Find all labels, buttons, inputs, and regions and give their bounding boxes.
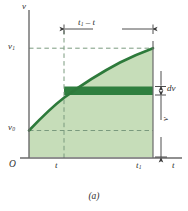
tick-label-v0: v0 — [8, 123, 15, 133]
span-annotation-label: t1 – t — [78, 18, 95, 28]
tick-label-t1: t1 — [136, 161, 142, 171]
tick-label-v1: v1 — [8, 42, 15, 52]
dv-dimension — [155, 71, 166, 110]
dv-annotation-label: dv — [167, 84, 176, 93]
velocity-time-figure: v t v1 v0 O t t1 t1 – t dv v (a) — [0, 0, 188, 211]
tick-label-t: t — [55, 161, 58, 170]
figure-caption: (a) — [0, 191, 188, 201]
y-axis-label: v — [22, 2, 26, 11]
figure-canvas — [0, 0, 188, 211]
v-height-annotation-label: v — [161, 117, 170, 121]
span-annotation-tail: – t — [84, 17, 96, 27]
tick-label-v0-subscript: 0 — [12, 126, 15, 132]
x-axis-label: t — [172, 161, 175, 170]
tick-label-v1-subscript: 1 — [12, 45, 15, 51]
area-under-curve — [29, 48, 153, 157]
origin-label: O — [9, 160, 16, 170]
tick-label-t1-subscript: 1 — [139, 164, 142, 170]
